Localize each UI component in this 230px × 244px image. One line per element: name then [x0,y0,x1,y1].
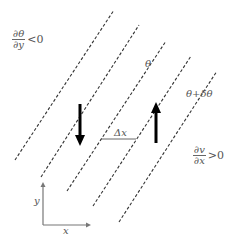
dashed-line-4 [93,56,191,206]
dv-dx-label: ∂v ∂x >0 [193,145,224,166]
isentrope-lines [15,10,217,222]
axis-x-label: x [63,225,69,236]
dashed-line-2 [41,25,139,177]
down-arrow-icon [75,104,85,146]
delta-x-label: Δx [114,127,127,138]
dv-dx-relation: >0 [208,149,224,162]
theta-plus-delta-label: θ+δθ [186,88,212,99]
dv-dx-denominator: ∂x [194,156,205,166]
up-arrow-icon [151,102,161,143]
theta-label: θ [145,58,151,69]
dtheta-dy-relation: <0 [27,33,43,46]
dtheta-dy-denominator: ∂y [13,40,24,50]
axis-y-label: y [34,195,40,206]
dtheta-dy-label: ∂θ ∂y <0 [12,29,43,50]
coordinate-axes [41,182,92,228]
